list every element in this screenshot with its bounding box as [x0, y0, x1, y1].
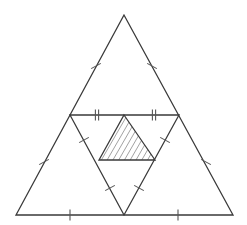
- geometry-figure: [0, 0, 247, 225]
- tick-medial-right-lower: [134, 185, 144, 190]
- hatch-line: [89, 0, 247, 225]
- hatch-line: [84, 0, 247, 225]
- hatch-line: [54, 0, 247, 225]
- hatch-line: [80, 0, 247, 225]
- shaded-triangle: [99, 115, 155, 160]
- shaded-triangle-hatching: [19, 0, 247, 225]
- hatch-line: [24, 0, 224, 225]
- tick-outer-right-upper: [147, 63, 157, 68]
- tick-medial-right-upper: [160, 137, 170, 142]
- hatch-line: [45, 0, 245, 225]
- tick-stroke: [134, 185, 144, 190]
- hatch-line: [50, 0, 247, 225]
- tick-stroke: [160, 137, 170, 142]
- tick-marks-group: [39, 63, 211, 220]
- tick-outer-right-lower: [201, 159, 211, 164]
- hatch-line: [76, 0, 247, 225]
- geometry-canvas: [0, 0, 247, 225]
- tick-stroke: [201, 159, 211, 164]
- hatch-line: [32, 0, 232, 225]
- hatch-line: [28, 0, 228, 225]
- hatch-line: [19, 0, 219, 225]
- tick-stroke: [147, 63, 157, 68]
